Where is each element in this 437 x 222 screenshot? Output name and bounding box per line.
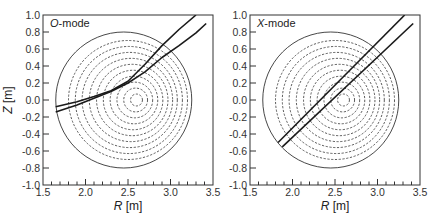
- panel-label: O-mode: [50, 17, 90, 29]
- y-tick-label: 1.0: [25, 9, 40, 21]
- plot-area: [263, 15, 413, 168]
- x-tick-label: 2.5: [121, 186, 136, 198]
- x-axis-title: R [m]: [114, 199, 143, 213]
- x-axis-title: R [m]: [321, 199, 350, 213]
- x-tick-label: 1.5: [36, 186, 51, 198]
- x-tick-label: 1.5: [243, 186, 258, 198]
- y-tick-label: 1.0: [232, 9, 247, 21]
- y-tick-label: -0.8: [22, 162, 40, 174]
- y-tick-label: -0.6: [22, 145, 40, 157]
- y-axis-title: Z [m]: [1, 86, 15, 114]
- figure: 1.00.80.60.40.20.0-0.2-0.4-0.6-0.8-1.01.…: [0, 0, 437, 222]
- x-tick-label: 3.0: [370, 186, 385, 198]
- flux-surface: [124, 88, 148, 112]
- flux-surface: [131, 94, 143, 106]
- y-tick-label: -0.6: [229, 145, 247, 157]
- y-tick-label: -0.4: [229, 128, 247, 140]
- flux-surface: [317, 76, 365, 124]
- panel-o-mode: 1.00.80.60.40.20.0-0.2-0.4-0.6-0.8-1.01.…: [1, 9, 220, 214]
- flux-surface: [97, 64, 168, 135]
- flux-surface: [282, 46, 389, 153]
- flux-surface: [89, 58, 172, 141]
- flux-surface: [331, 88, 355, 112]
- y-tick-label: 0.4: [232, 60, 247, 72]
- x-tick-label: 2.5: [328, 186, 343, 198]
- y-tick-label: 0.6: [25, 43, 40, 55]
- x-tick-label: 3.5: [413, 186, 428, 198]
- y-tick-label: 0.8: [25, 26, 40, 38]
- y-tick-label: 0.6: [232, 43, 247, 55]
- flux-surface: [296, 58, 379, 141]
- x-tick-label: 2.0: [78, 186, 93, 198]
- y-tick-label: 0.4: [25, 60, 40, 72]
- y-tick-label: -0.2: [22, 111, 40, 123]
- panel-label: X-mode: [256, 17, 296, 29]
- panel-x-mode: 1.00.80.60.40.20.0-0.2-0.4-0.6-0.8-1.01.…: [229, 9, 428, 214]
- y-tick-label: 0.2: [25, 77, 40, 89]
- y-tick-label: -0.2: [229, 111, 247, 123]
- y-tick-label: 0.0: [25, 94, 40, 106]
- flux-surface: [110, 76, 158, 124]
- y-tick-label: 0.8: [232, 26, 247, 38]
- x-tick-label: 2.0: [285, 186, 300, 198]
- x-tick-label: 3.5: [206, 186, 221, 198]
- y-tick-label: 0.2: [232, 77, 247, 89]
- x-tick-label: 3.0: [163, 186, 178, 198]
- y-tick-label: -0.8: [229, 162, 247, 174]
- flux-surface: [69, 41, 188, 160]
- flux-surface: [338, 94, 350, 106]
- plot-area: [56, 15, 207, 168]
- flux-surface: [304, 64, 375, 135]
- ray-trajectory: [278, 15, 405, 143]
- y-tick-label: 0.0: [232, 94, 247, 106]
- y-tick-label: -0.4: [22, 128, 40, 140]
